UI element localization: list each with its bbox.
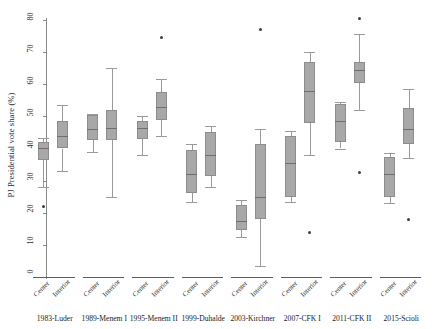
boxplot-outlier-point (259, 28, 262, 31)
boxplot-lower-whisker (142, 139, 143, 155)
boxplot-outlier-point (42, 205, 45, 208)
x-axis-group-line (231, 277, 273, 278)
boxplot-median-line (285, 163, 296, 164)
boxplot-upper-cap (236, 200, 247, 201)
x-axis-subgroup-label-interior: Interior (200, 278, 221, 299)
y-axis-tick-mark (43, 52, 46, 53)
boxplot-iqr-box (137, 121, 148, 139)
y-axis-tick-label: 70 (26, 44, 35, 60)
boxplot-upper-whisker (112, 68, 113, 110)
x-axis-subgroup-label-interior: Interior (150, 278, 171, 299)
x-axis-subgroup-label-center: Center (280, 279, 299, 298)
x-axis-group-line (132, 277, 174, 278)
boxplot-median-line (186, 174, 197, 175)
boxplot-upper-cap (354, 34, 365, 35)
boxplot-iqr-box (186, 150, 197, 193)
boxplot-upper-cap (186, 144, 197, 145)
x-axis-subgroup-label-center: Center (131, 279, 150, 298)
x-axis-subgroup-label-center: Center (329, 279, 348, 298)
boxplot-lower-whisker (93, 140, 94, 152)
x-axis-subgroup-label-interior: Interior (249, 278, 270, 299)
boxplot-median-line (354, 70, 365, 71)
x-axis-group-line (330, 277, 372, 278)
y-axis-tick-mark (43, 213, 46, 214)
x-axis-subgroup-label-center: Center (230, 279, 249, 298)
boxplot-iqr-box (384, 157, 395, 197)
boxplot-median-line (384, 174, 395, 175)
boxplot-lower-cap (354, 110, 365, 111)
x-axis-subgroup-label-interior: Interior (348, 278, 369, 299)
boxplot-lower-cap (205, 187, 216, 188)
boxplot-iqr-box (38, 142, 49, 160)
x-axis-group-line (33, 277, 75, 278)
boxplot-lower-cap (335, 149, 346, 150)
boxplot-upper-cap (137, 116, 148, 117)
y-axis-title: PJ Presidential vote share (%) (4, 0, 18, 290)
boxplot-lower-cap (403, 158, 414, 159)
boxplot-lower-cap (255, 266, 266, 267)
boxplot-median-line (255, 197, 266, 198)
boxplot-upper-whisker (260, 129, 261, 143)
boxplot-lower-whisker (359, 83, 360, 110)
boxplot-median-line (236, 221, 247, 222)
x-axis-subgroup-label-center: Center (379, 279, 398, 298)
x-axis-subgroup-label-center: Center (82, 279, 101, 298)
boxplot-upper-cap (57, 105, 68, 106)
y-axis-tick-label: 20 (26, 205, 35, 221)
boxplot-iqr-box (285, 136, 296, 197)
boxplot-iqr-box (304, 62, 315, 123)
boxplot-upper-cap (403, 89, 414, 90)
boxplot-outlier-point (160, 36, 163, 39)
boxplot-upper-whisker (310, 52, 311, 62)
boxplot-median-line (403, 129, 414, 130)
boxplot-upper-cap (304, 52, 315, 53)
boxplot-upper-cap (156, 79, 167, 80)
boxplot-lower-whisker (161, 120, 162, 136)
boxplot-upper-whisker (359, 34, 360, 61)
boxplot-median-line (335, 121, 346, 122)
boxplot-outlier-point (358, 171, 361, 174)
boxplot-upper-cap (384, 153, 395, 154)
boxplot-lower-whisker (211, 176, 212, 187)
boxplot-upper-whisker (62, 105, 63, 121)
boxplot-median-line (156, 107, 167, 108)
boxplot-lower-cap (156, 136, 167, 137)
boxplot-lower-cap (106, 197, 117, 198)
boxplot-median-line (38, 148, 49, 149)
x-axis-subgroup-label-center: Center (32, 279, 51, 298)
boxplot-lower-whisker (310, 123, 311, 155)
boxplot-lower-cap (304, 155, 315, 156)
boxplot-upper-cap (255, 129, 266, 130)
boxplot-outlier-point (358, 17, 361, 20)
y-axis-tick-mark (43, 84, 46, 85)
boxplot-lower-cap (186, 202, 197, 203)
boxplot-iqr-box (106, 110, 117, 141)
boxplot-lower-cap (87, 152, 98, 153)
boxplot-iqr-box (57, 121, 68, 148)
x-axis-subgroup-label-center: Center (181, 279, 200, 298)
y-axis-tick-label: 30 (26, 173, 35, 189)
boxplot-lower-cap (285, 202, 296, 203)
boxplot-lower-cap (137, 155, 148, 156)
y-axis-tick-label: 40 (26, 141, 35, 157)
boxplot-lower-cap (57, 171, 68, 172)
boxplot-iqr-box (255, 144, 266, 219)
boxplot-upper-cap (38, 138, 49, 139)
x-axis-group-label: 2015-Scioli (372, 314, 432, 323)
boxplot-upper-whisker (161, 79, 162, 92)
boxplot-median-line (137, 128, 148, 129)
boxplot-lower-whisker (260, 219, 261, 266)
boxplot-iqr-box (335, 104, 346, 143)
y-axis-tick-mark (43, 116, 46, 117)
boxplot-iqr-box (403, 108, 414, 143)
y-axis-tick-mark (43, 245, 46, 246)
boxplot-median-line (57, 136, 68, 137)
boxplot-upper-cap (205, 126, 216, 127)
y-axis-tick-mark (43, 20, 46, 21)
boxplot-outlier-point (308, 231, 311, 234)
boxplot-upper-cap (106, 68, 117, 69)
x-axis-subgroup-label-interior: Interior (101, 278, 122, 299)
boxplot-upper-cap (285, 131, 296, 132)
boxplot-iqr-box (354, 62, 365, 83)
boxplot-lower-whisker (192, 193, 193, 201)
